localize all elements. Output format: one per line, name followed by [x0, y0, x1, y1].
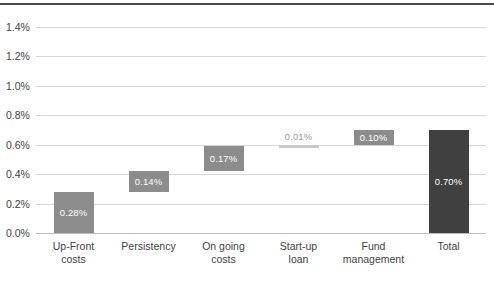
y-axis-tick-label: 1.2% [6, 51, 52, 62]
x-axis-label-line: Persistency [111, 240, 186, 253]
bar-value-label: 0.14% [135, 177, 162, 187]
gridline [36, 204, 486, 205]
x-axis-label-line: costs [186, 253, 261, 266]
y-axis-tick-label: 1.0% [6, 81, 52, 92]
bar-start-up-loan[interactable]: 0.01% [279, 145, 319, 148]
x-axis-label-on-going-costs: On goingcosts [186, 240, 261, 266]
x-axis-label-line: Up-Front [36, 240, 111, 253]
bar-persistency[interactable]: 0.14% [129, 171, 169, 192]
bar-value-label: 0.17% [210, 154, 237, 164]
x-axis-label-line: loan [261, 253, 336, 266]
x-axis-category-labels: Up-FrontcostsPersistencyOn goingcostsSta… [36, 240, 486, 280]
waterfall-chart: 0.28%0.14%0.17%0.01%0.10%0.70% 1.4%1.2%1… [0, 0, 494, 283]
x-axis-label-line: management [336, 253, 411, 266]
y-axis-tick-label: 1.4% [6, 22, 52, 33]
bar-value-label: 0.01% [285, 132, 312, 142]
y-axis-tick-label: 0.4% [6, 169, 52, 180]
gridline [36, 174, 486, 175]
x-axis-label-line: Start-up [261, 240, 336, 253]
gridline [36, 56, 486, 57]
plot-area: 0.28%0.14%0.17%0.01%0.10%0.70% [36, 27, 486, 233]
y-axis-tick-label: 0.2% [6, 199, 52, 210]
gridline [36, 86, 486, 87]
bar-on-going-costs[interactable]: 0.17% [204, 146, 244, 171]
x-axis-label-start-up-loan: Start-uploan [261, 240, 336, 266]
bar-total[interactable]: 0.70% [429, 130, 469, 233]
x-axis-label-persistency: Persistency [111, 240, 186, 253]
y-axis-tick-label: 0.6% [6, 140, 52, 151]
gridline [36, 115, 486, 116]
x-axis-baseline [36, 233, 486, 234]
x-axis-label-up-front-costs: Up-Frontcosts [36, 240, 111, 266]
x-axis-label-total: Total [411, 240, 486, 253]
bar-value-label: 0.28% [60, 208, 87, 218]
top-divider-rule [0, 3, 494, 5]
bar-fund-management[interactable]: 0.10% [354, 130, 394, 145]
x-axis-label-line: costs [36, 253, 111, 266]
x-axis-label-line: Total [411, 240, 486, 253]
x-axis-label-line: On going [186, 240, 261, 253]
y-axis-tick-label: 0.0% [6, 228, 52, 239]
gridline [36, 27, 486, 28]
bar-up-front-costs[interactable]: 0.28% [54, 192, 94, 233]
gridline [36, 145, 486, 146]
x-axis-label-line: Fund [336, 240, 411, 253]
y-axis-tick-label: 0.8% [6, 110, 52, 121]
bar-value-label: 0.70% [435, 177, 462, 187]
x-axis-label-fund-management: Fundmanagement [336, 240, 411, 266]
bar-value-label: 0.10% [360, 133, 387, 143]
